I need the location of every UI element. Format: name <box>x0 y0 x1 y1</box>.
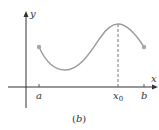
x-axis-label: x <box>151 73 157 84</box>
x-axis-arrow-icon <box>152 85 158 90</box>
figure-caption: (b) <box>72 113 86 124</box>
function-curve <box>39 24 144 70</box>
endpoint-a <box>37 45 41 49</box>
function-diagram: y x a x0 b (b) <box>0 0 159 130</box>
tick-label-b: b <box>141 90 147 101</box>
y-axis-arrow-icon <box>24 11 29 17</box>
tick-label-x0: x0 <box>113 90 123 103</box>
tick-label-a: a <box>36 90 42 101</box>
y-axis-label: y <box>29 8 36 19</box>
endpoint-b <box>142 45 146 49</box>
